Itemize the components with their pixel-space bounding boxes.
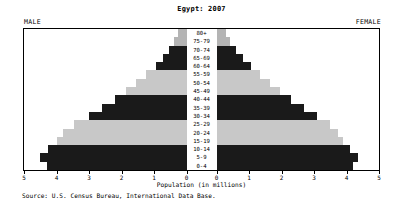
x-tick-label: 1: [247, 174, 251, 181]
x-tick-label: 3: [87, 174, 91, 181]
male-bar-cell: [24, 62, 187, 70]
female-bar-cell: [217, 37, 380, 45]
male-bar-cell: [24, 145, 187, 153]
age-group-label: 80+: [187, 29, 217, 37]
male-bar: [74, 120, 186, 128]
age-group-label: 30-34: [187, 112, 217, 120]
chart-title: Egypt: 2007: [0, 5, 403, 13]
male-bar-cell: [24, 112, 187, 120]
female-bar-cell: [217, 145, 380, 153]
x-tick-label: 5: [22, 174, 26, 181]
male-bar-cell: [24, 129, 187, 137]
female-bar-cell: [217, 62, 380, 70]
male-bar-cell: [24, 29, 187, 37]
female-bar: [217, 112, 318, 120]
pyramid-row: 65-69: [24, 54, 379, 62]
male-bar-cell: [24, 70, 187, 78]
female-bar: [217, 70, 261, 78]
age-group-label: 50-54: [187, 79, 217, 87]
female-bar: [217, 62, 251, 70]
female-bar-cell: [217, 70, 380, 78]
pyramid-row: 70-74: [24, 46, 379, 54]
female-side-label: FEMALE: [356, 18, 381, 26]
male-bar-cell: [24, 37, 187, 45]
pyramid-row: 55-59: [24, 70, 379, 78]
x-tick-label: 3: [312, 174, 316, 181]
x-axis-title: Population (in millions): [0, 181, 403, 188]
male-bar: [63, 129, 187, 137]
female-bar-cell: [217, 137, 380, 145]
pyramid-row: 30-34: [24, 112, 379, 120]
female-bar: [217, 87, 280, 95]
female-bar: [217, 145, 350, 153]
pyramid-row: 75-79: [24, 37, 379, 45]
female-bar-cell: [217, 54, 380, 62]
male-bar: [163, 54, 187, 62]
age-group-label: 20-24: [187, 129, 217, 137]
male-bar: [174, 37, 186, 45]
age-group-label: 25-29: [187, 120, 217, 128]
x-tick-label: 2: [120, 174, 124, 181]
plot-area: 80+75-7970-7465-6960-6455-5950-5445-4940…: [23, 28, 380, 171]
pyramid-row: 80+: [24, 29, 379, 37]
age-group-label: 55-59: [187, 70, 217, 78]
male-bar-cell: [24, 87, 187, 95]
female-bar: [217, 162, 354, 170]
x-tick-label: 2: [280, 174, 284, 181]
x-tick-label: 5: [377, 174, 381, 181]
female-bar: [217, 29, 226, 37]
pyramid-row: 40-44: [24, 95, 379, 103]
age-group-label: 60-64: [187, 62, 217, 70]
male-bar: [136, 79, 186, 87]
age-group-label: 10-14: [187, 145, 217, 153]
x-tick-label: 1: [152, 174, 156, 181]
age-group-label: 75-79: [187, 37, 217, 45]
source-note: Source: U.S. Census Bureau, Internationa…: [22, 192, 216, 199]
male-bar: [89, 112, 187, 120]
female-bar-cell: [217, 129, 380, 137]
male-bar-cell: [24, 120, 187, 128]
female-bar: [217, 129, 339, 137]
male-bar: [169, 46, 187, 54]
male-bar: [102, 104, 187, 112]
pyramid-row: 45-49: [24, 87, 379, 95]
x-tick-label: 4: [55, 174, 59, 181]
male-bar-cell: [24, 95, 187, 103]
male-bar: [40, 153, 186, 161]
population-pyramid-chart: Egypt: 2007 MALE FEMALE 80+75-7970-7465-…: [0, 0, 403, 212]
age-group-label: 40-44: [187, 95, 217, 103]
age-group-label: 65-69: [187, 54, 217, 62]
male-bar: [178, 29, 186, 37]
female-bar-cell: [217, 87, 380, 95]
female-bar-cell: [217, 29, 380, 37]
female-bar: [217, 137, 344, 145]
male-bar: [126, 87, 186, 95]
female-bar-cell: [217, 153, 380, 161]
male-bar-cell: [24, 54, 187, 62]
x-tick-label: 0: [185, 174, 189, 181]
pyramid-row: 10-14: [24, 145, 379, 153]
female-bar: [217, 104, 305, 112]
age-group-label: 5-9: [187, 153, 217, 161]
female-bar: [217, 37, 231, 45]
female-bar-cell: [217, 104, 380, 112]
male-bar-cell: [24, 79, 187, 87]
male-bar: [57, 137, 187, 145]
female-bar-cell: [217, 120, 380, 128]
female-bar: [217, 79, 271, 87]
female-bar-cell: [217, 162, 380, 170]
female-bar-cell: [217, 79, 380, 87]
pyramid-row: 25-29: [24, 120, 379, 128]
age-group-label: 0-4: [187, 162, 217, 170]
female-bar-cell: [217, 112, 380, 120]
male-bar-cell: [24, 137, 187, 145]
female-bar: [217, 120, 331, 128]
pyramid-row: 5-9: [24, 153, 379, 161]
x-tick-label: 0: [215, 174, 219, 181]
female-bar-cell: [217, 46, 380, 54]
age-group-label: 15-19: [187, 137, 217, 145]
male-bar: [146, 70, 187, 78]
male-bar: [115, 95, 187, 103]
female-bar-cell: [217, 95, 380, 103]
x-tick-label: 4: [345, 174, 349, 181]
